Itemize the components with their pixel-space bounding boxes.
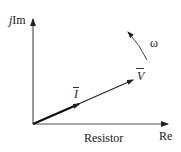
current-phasor-arrow (33, 104, 79, 124)
phasor-diagram-canvas (0, 0, 181, 152)
caption: Resistor (84, 132, 123, 144)
voltage-phasor-label: V (137, 70, 144, 82)
phasor-diagram: jIm Re Resistor I V ω (0, 0, 181, 152)
angular-frequency-label: ω (150, 37, 158, 49)
current-phasor-label: I (74, 88, 78, 100)
rotation-arc-icon (128, 32, 147, 60)
imaginary-axis-label: jIm (9, 14, 26, 26)
real-axis-label: Re (159, 130, 172, 142)
